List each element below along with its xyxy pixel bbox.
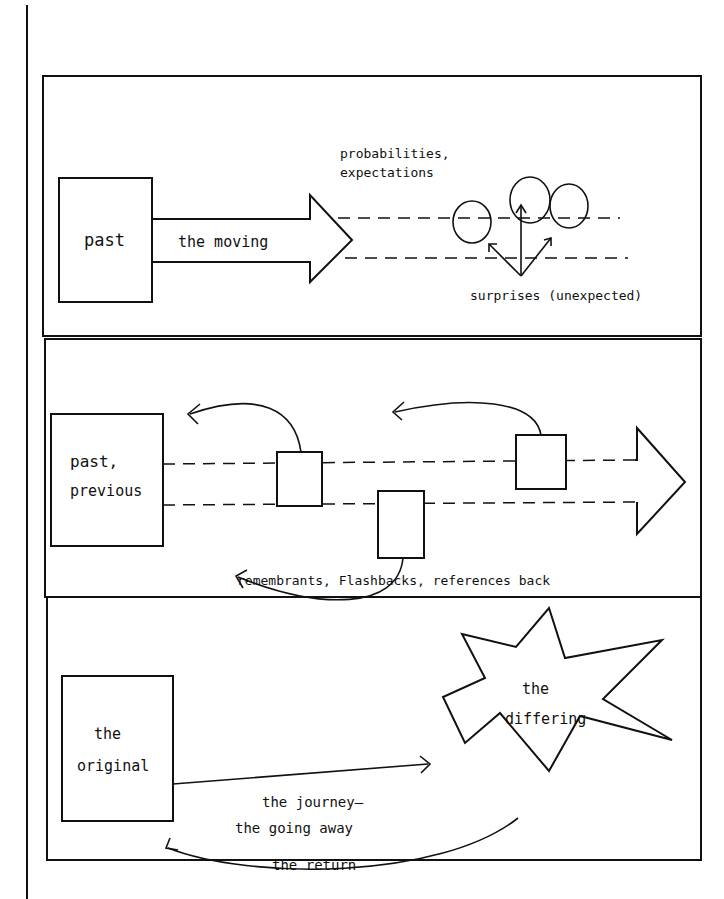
return-label: the return bbox=[272, 857, 356, 873]
surprise-circle-2 bbox=[550, 184, 588, 228]
original-label: original bbox=[77, 757, 149, 775]
differing-label: differing bbox=[505, 710, 586, 728]
original-the-label: the bbox=[94, 725, 121, 743]
flashback-caption: remembrants, Flashbacks, references back bbox=[237, 573, 550, 588]
memory-box-3 bbox=[516, 435, 566, 489]
journey-label: the journey– bbox=[262, 794, 364, 810]
original-box bbox=[62, 676, 173, 821]
diagram-canvas: past the moving probabilities, expectati… bbox=[0, 0, 724, 899]
flashback-arrows bbox=[188, 402, 541, 600]
differing-the-label: the bbox=[522, 680, 549, 698]
past-label: past, bbox=[70, 452, 118, 471]
going-away-label: the going away bbox=[235, 820, 353, 836]
past-label: past bbox=[84, 230, 125, 250]
previous-label: previous bbox=[70, 482, 142, 500]
timeline-arrowhead bbox=[635, 428, 685, 534]
probabilities-label: probabilities, bbox=[340, 146, 450, 161]
expectations-label: expectations bbox=[340, 165, 434, 180]
surprise-circle-3 bbox=[453, 201, 491, 243]
panel-flashback: past, previous remembrants, Flashbacks, … bbox=[45, 339, 701, 600]
surprise-arrows bbox=[489, 205, 551, 276]
journey-arrow bbox=[173, 764, 428, 784]
panel-expectation: past the moving probabilities, expectati… bbox=[43, 76, 701, 336]
memory-box-1 bbox=[277, 452, 322, 506]
surprises-label: surprises (unexpected) bbox=[470, 288, 642, 303]
memory-box-2 bbox=[378, 491, 424, 558]
past-previous-box bbox=[51, 414, 163, 546]
panel-journey: the original the differing the journey– … bbox=[47, 597, 701, 873]
moving-label: the moving bbox=[178, 233, 268, 251]
return-arrowhead bbox=[166, 838, 178, 850]
surprise-circle-1 bbox=[510, 177, 550, 223]
differing-star bbox=[443, 608, 672, 771]
